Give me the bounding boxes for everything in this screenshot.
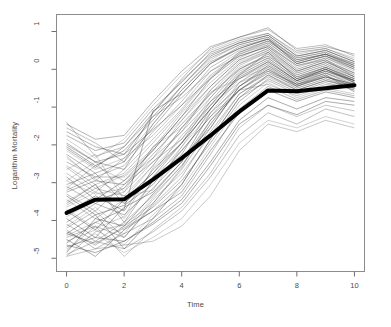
chart-figure: Logarithm Mortality Time 10-1-2-3-4-5 02… (0, 0, 391, 327)
y-tick-label: -2 (31, 134, 40, 154)
x-tick-label: 8 (287, 281, 307, 290)
x-axis-title: Time (0, 300, 391, 309)
plot-background (0, 0, 391, 327)
y-tick-label: -3 (31, 172, 40, 192)
x-tick-label: 10 (344, 281, 364, 290)
y-tick-label: -4 (31, 210, 40, 230)
x-tick-label: 4 (172, 281, 192, 290)
y-tick-label: 0 (31, 59, 40, 79)
y-tick-label: -1 (31, 97, 40, 117)
y-axis-title: Logarithm Mortality (10, 96, 19, 216)
y-tick-label: 1 (31, 21, 40, 41)
x-tick-label: 6 (229, 281, 249, 290)
x-tick-label: 2 (114, 281, 134, 290)
y-tick-label: -5 (31, 248, 40, 268)
spaghetti-plot-canvas (0, 0, 391, 327)
x-tick-label: 0 (57, 281, 77, 290)
